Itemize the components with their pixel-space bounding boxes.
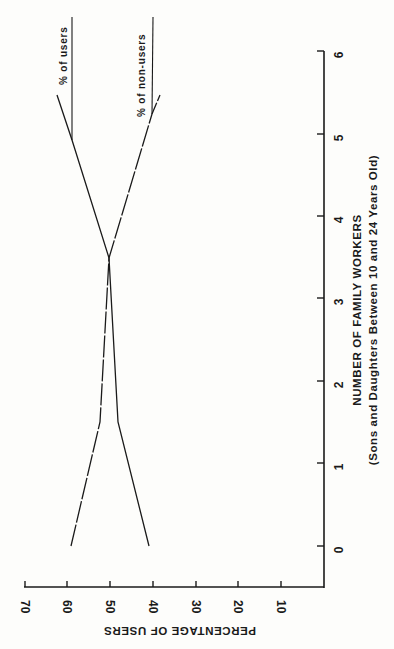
x-tick-5: 5 xyxy=(332,134,346,141)
x-tick-1: 1 xyxy=(332,463,346,470)
y-axis: 70 60 50 40 30 20 10 PERCENTAGE OF USERS xyxy=(18,581,324,637)
y-tick-40: 40 xyxy=(146,600,160,614)
y-axis-title: PERCENTAGE OF USERS xyxy=(104,625,256,637)
y-tick-30: 30 xyxy=(189,600,203,614)
y-tick-20: 20 xyxy=(231,600,245,614)
y-tick-10: 10 xyxy=(274,600,288,614)
non-users-series-label: % of non-users xyxy=(136,34,147,117)
chart: 70 60 50 40 30 20 10 PERCENTAGE OF USERS… xyxy=(0,0,394,649)
y-tick-70: 70 xyxy=(18,600,32,614)
users-series-label: % of users xyxy=(58,26,69,85)
y-tick-60: 60 xyxy=(60,600,74,614)
x-axis-title: NUMBER OF FAMILY WORKERS xyxy=(351,214,363,405)
y-tick-50: 50 xyxy=(103,600,117,614)
x-axis: 0 1 2 3 4 5 6 NUMBER OF FAMILY WORKERS (… xyxy=(317,51,379,588)
x-tick-4: 4 xyxy=(332,216,346,223)
x-tick-2: 2 xyxy=(332,381,346,388)
x-tick-0: 0 xyxy=(332,546,346,553)
x-tick-3: 3 xyxy=(332,298,346,305)
x-tick-6: 6 xyxy=(332,51,346,58)
series-non-users: % of non-users xyxy=(71,17,160,546)
x-axis-subtitle: (Sons and Daughters Between 10 and 24 Ye… xyxy=(367,155,379,465)
non-users-leader-line xyxy=(152,17,153,114)
